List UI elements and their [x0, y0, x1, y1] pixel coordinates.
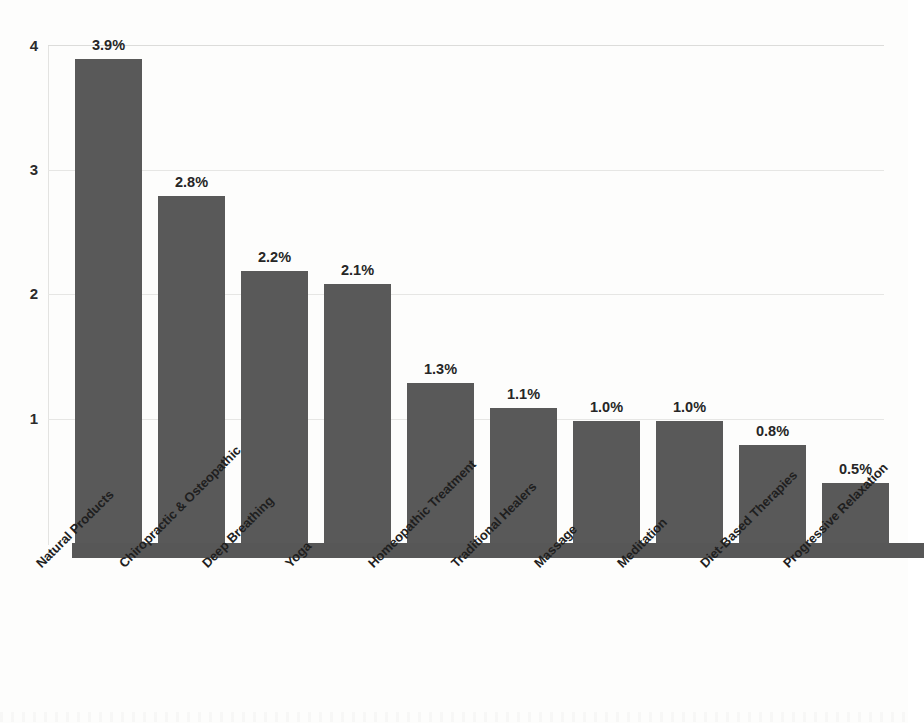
bar-value-label: 1.1%: [476, 386, 571, 402]
bar-natural-products[interactable]: [75, 59, 142, 545]
bar-value-label: 3.9%: [61, 37, 156, 53]
bar-group-natural-products[interactable]: 3.9%: [75, 42, 142, 545]
y-tick-label-3: 3: [12, 161, 38, 178]
bar-value-label: 2.1%: [310, 262, 405, 278]
y-tick-label-4: 4: [12, 37, 38, 54]
bar-group-deep-breathing[interactable]: 2.2%: [241, 42, 308, 545]
scan-artifact: [0, 712, 908, 722]
bar-value-label: 1.3%: [393, 361, 488, 377]
bar-group-meditation[interactable]: 1.0%: [656, 42, 723, 545]
bar-massage[interactable]: [573, 421, 640, 546]
y-tick-label-1: 1: [12, 410, 38, 427]
x-axis: Natural Products Chiropractic & Osteopat…: [0, 560, 908, 710]
bar-group-traditional-healers[interactable]: 1.1%: [490, 42, 557, 545]
bar-group-massage[interactable]: 1.0%: [573, 42, 640, 545]
bar-value-label: 1.0%: [559, 399, 654, 415]
bar-group-diet-based-therapies[interactable]: 0.8%: [739, 42, 806, 545]
bar-value-label: 2.2%: [227, 249, 322, 265]
bar-yoga[interactable]: [324, 284, 391, 545]
y-tick-label-2: 2: [12, 285, 38, 302]
bar-group-yoga[interactable]: 2.1%: [324, 42, 391, 545]
bar-value-label: 0.8%: [725, 423, 820, 439]
y-axis: 4 3 2 1: [0, 40, 38, 545]
bar-value-label: 2.8%: [144, 174, 239, 190]
bar-value-label: 1.0%: [642, 399, 737, 415]
